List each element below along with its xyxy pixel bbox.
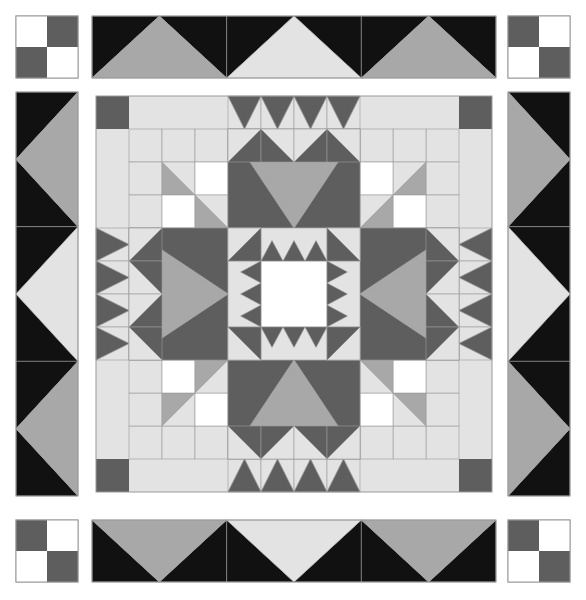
four-patch-cell <box>47 551 78 582</box>
ring-a-corner <box>96 96 129 129</box>
quad-light <box>426 393 459 426</box>
four-patch-cell <box>508 520 539 551</box>
medallion-center-square <box>261 261 327 327</box>
quad-light <box>129 426 162 459</box>
quad-light <box>360 426 393 459</box>
four-patch-cell <box>16 520 47 551</box>
quad-light <box>426 360 459 393</box>
quad-light <box>393 129 426 162</box>
four-patch-cell <box>508 551 539 582</box>
four-patch-cell <box>47 47 78 78</box>
four-patch-cell <box>539 520 570 551</box>
quad-white <box>393 360 426 393</box>
four-patch-cell <box>47 16 78 47</box>
four-patch-cell <box>16 551 47 582</box>
ring-a-corner <box>96 459 129 492</box>
four-patch-cell <box>539 16 570 47</box>
quad-light <box>360 129 393 162</box>
quad-white <box>195 162 228 195</box>
quad-light <box>195 129 228 162</box>
quad-light <box>129 162 162 195</box>
four-patch-cell <box>47 520 78 551</box>
quad-light <box>129 393 162 426</box>
quad-light <box>426 162 459 195</box>
quad-light <box>426 195 459 228</box>
ring-a-corner <box>459 96 492 129</box>
quad-light <box>426 129 459 162</box>
four-patch-cell <box>508 16 539 47</box>
quad-light <box>129 129 162 162</box>
quad-light <box>162 129 195 162</box>
four-patch-cell <box>539 551 570 582</box>
quilt-artwork <box>0 0 586 600</box>
four-patch-cell <box>16 16 47 47</box>
quad-light <box>195 426 228 459</box>
quad-white <box>162 195 195 228</box>
quad-white <box>393 195 426 228</box>
quad-white <box>195 393 228 426</box>
quad-light <box>393 426 426 459</box>
quad-white <box>360 162 393 195</box>
quad-light <box>129 360 162 393</box>
four-patch-cell <box>508 47 539 78</box>
four-patch-cell <box>16 47 47 78</box>
quilt-canvas <box>0 0 586 600</box>
ring-a-corner <box>459 459 492 492</box>
quad-white <box>162 360 195 393</box>
quad-white <box>360 393 393 426</box>
quad-light <box>426 426 459 459</box>
quad-light <box>162 426 195 459</box>
four-patch-cell <box>539 47 570 78</box>
quad-light <box>129 195 162 228</box>
